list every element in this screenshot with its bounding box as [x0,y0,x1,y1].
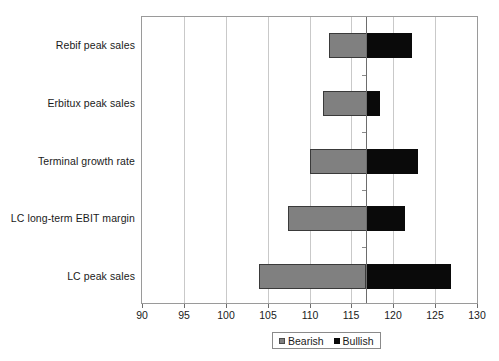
x-tick-label: 115 [331,309,371,321]
x-tick-label: 110 [290,309,330,321]
x-tick-mark [226,304,227,308]
chart-legend: BearishBullish [272,332,381,349]
category-label: LC long-term EBIT margin [0,212,135,224]
legend-label: Bearish [288,335,324,347]
bar-segment-bearish[interactable] [323,91,367,116]
legend-item-bullish[interactable]: Bullish [334,335,374,347]
legend-item-bearish[interactable]: Bearish [279,335,324,347]
bar-segment-bearish[interactable] [259,264,366,289]
x-tick-mark [393,304,394,308]
plot-area [141,16,478,304]
bearish-swatch-icon [279,338,285,344]
x-tick-mark [310,304,311,308]
x-tick-label: 125 [415,309,455,321]
bar-segment-bearish[interactable] [288,206,367,231]
bar-segment-bullish[interactable] [366,206,405,231]
bar-row[interactable] [142,33,477,58]
x-tick-label: 100 [206,309,246,321]
bullish-swatch-icon [334,338,340,344]
minor-tick [362,75,366,76]
bar-row[interactable] [142,149,477,174]
category-label: Terminal growth rate [0,155,135,167]
x-tick-label: 90 [122,309,162,321]
category-label: Erbitux peak sales [0,97,135,109]
x-tick-mark [268,304,269,308]
bar-row[interactable] [142,264,477,289]
x-tick-label: 130 [457,309,497,321]
bar-segment-bullish[interactable] [366,33,412,58]
bar-segment-bearish[interactable] [329,33,367,58]
bar-row[interactable] [142,91,477,116]
x-tick-mark [142,304,143,308]
bar-segment-bullish[interactable] [366,91,380,116]
tornado-chart: Rebif peak salesErbitux peak salesTermin… [0,0,499,361]
minor-tick [362,132,366,133]
x-tick-label: 105 [248,309,288,321]
bar-segment-bullish[interactable] [366,149,418,174]
bar-segment-bearish[interactable] [310,149,367,174]
category-label: Rebif peak sales [0,39,135,51]
minor-tick [362,190,366,191]
bar-segment-bullish[interactable] [366,264,451,289]
x-tick-label: 95 [164,309,204,321]
bar-row[interactable] [142,206,477,231]
minor-tick [362,247,366,248]
base-case-line [366,17,367,303]
x-tick-mark [435,304,436,308]
x-tick-label: 120 [373,309,413,321]
x-tick-mark [184,304,185,308]
x-tick-mark [477,304,478,308]
category-label: LC peak sales [0,270,135,282]
legend-label: Bullish [343,335,374,347]
x-tick-mark [351,304,352,308]
